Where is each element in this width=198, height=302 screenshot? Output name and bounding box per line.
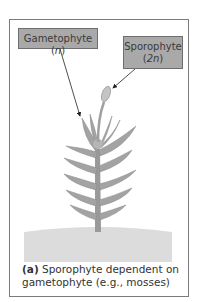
caption-line-1: Sporophyte dependent on [39, 263, 179, 275]
sporophyte-ploidy: 2n [147, 53, 160, 64]
gametophyte-label-text: Gametophyte [24, 33, 93, 44]
sporophyte-label: Sporophyte (2n) [123, 36, 183, 69]
sporophyte-capsule [100, 85, 113, 103]
figure-caption: (a) Sporophyte dependent on gametophyte … [22, 263, 187, 289]
gametophyte-arrow [60, 49, 80, 116]
caption-tag: (a) [22, 263, 39, 275]
gametophyte-label: Gametophyte (n) [18, 28, 98, 49]
caption-line-2: gametophyte (e.g., mosses) [22, 276, 170, 288]
ground [24, 227, 172, 262]
sporophyte-label-text: Sporophyte [124, 41, 182, 53]
gametophyte-ploidy: n [55, 45, 61, 56]
sporophyte-arrow [113, 69, 135, 88]
